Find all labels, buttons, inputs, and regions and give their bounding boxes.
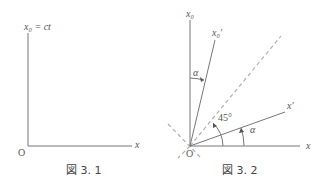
x0-label: x₀ — [185, 8, 194, 19]
x-label: x — [305, 140, 311, 151]
x-prime-label: x′ — [286, 100, 294, 111]
y-axis-label: x₀ = ct — [23, 21, 51, 32]
alpha-label-upper: α — [193, 67, 199, 78]
angle-45-label: 45° — [218, 112, 232, 123]
figure-caption: 図 3. 2 — [222, 164, 258, 177]
arrowhead-icon — [239, 128, 244, 133]
x-axis-label: x — [134, 139, 140, 150]
diagram-canvas: x₀ = ct x O 図 3. 1 x₀ x₀′ x′ x O α α 45°… — [0, 0, 328, 188]
figure-3-1: x₀ = ct x O 図 3. 1 — [18, 21, 140, 177]
alpha-label-lower: α — [250, 124, 256, 135]
x0-prime-axis — [190, 40, 215, 146]
figure-caption: 図 3. 1 — [66, 164, 102, 177]
x0-prime-label: x₀′ — [211, 27, 223, 38]
figure-3-2: x₀ x₀′ x′ x O α α 45° 図 3. 2 — [168, 8, 311, 177]
origin-label: O — [186, 148, 193, 159]
light-cone-dashed-left — [168, 124, 201, 158]
origin-label: O — [18, 147, 25, 158]
